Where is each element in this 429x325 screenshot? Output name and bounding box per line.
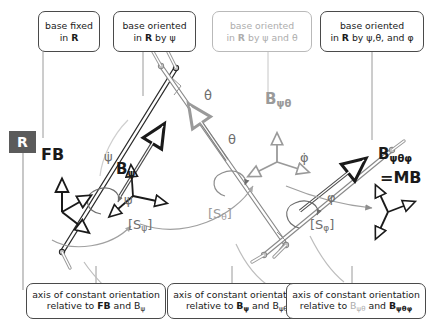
arrow-fb-to-bpsi xyxy=(52,226,131,247)
arc-decor-2 xyxy=(310,236,344,282)
phi-label: φ xyxy=(327,190,336,205)
bottom-box-axis1-line2: relative to FB and Bψ xyxy=(47,300,145,313)
bottom-box-axis3-line1: axis of constant orientation xyxy=(292,289,420,300)
reference-frame-badge: R xyxy=(9,131,36,153)
transform-s-theta-label: [Sθ] xyxy=(208,206,232,222)
frame-mb xyxy=(376,186,414,238)
top-box-bpsitheta-line1: base oriented xyxy=(230,20,294,31)
bpsitheta-frame-label: Bψθ xyxy=(265,90,291,109)
theta-dot-label: θ̇ xyxy=(204,88,212,103)
transform-s-psi-label: [Sψ] xyxy=(128,217,152,233)
top-box-bpsi-line1: base oriented xyxy=(122,20,186,31)
bottom-box-axis2-line2: relative to Bψ and Bψθ xyxy=(186,300,288,313)
bmb-frame-label: Bψθφ xyxy=(378,145,412,164)
mb-axis-z xyxy=(376,186,388,212)
kinematics-diagram: base fixed in R base oriented in R by ψ … xyxy=(0,0,429,325)
bottom-box-axis3: axis of constant orientation relative to… xyxy=(286,283,426,319)
arrow-bpsi-to-bpsitheta xyxy=(140,186,253,229)
bottom-box-axis3-line2: relative to Bψθ and Bψθφ xyxy=(300,300,412,313)
rotation-arcs xyxy=(87,171,317,228)
leader-lines-bottom xyxy=(96,266,352,283)
bottom-box-axis1-line1: axis of constant orientation xyxy=(32,289,160,300)
mb-frame-label: =MB xyxy=(380,168,422,187)
top-box-bpsitheta: base oriented in R by ψ and θ xyxy=(212,11,312,52)
psi-dot-label: ψ̇ xyxy=(104,149,113,164)
top-box-fb: base fixed in R xyxy=(38,11,100,52)
frame-fb xyxy=(62,180,90,232)
transform-s-phi-label: [Sφ] xyxy=(310,217,334,233)
bpsi-frame-label: Bψ xyxy=(116,160,135,179)
bpsitheta-axis-x xyxy=(249,162,277,176)
bottom-box-axis2-line1: axis of constant orientation xyxy=(173,289,301,300)
psi-label: ψ xyxy=(124,192,133,207)
top-box-bmb: base oriented in R by ψ,θ, and φ xyxy=(320,11,424,52)
bottom-box-axis1: axis of constant orientation relative to… xyxy=(26,283,166,319)
top-box-bpsi-line2: in R by ψ xyxy=(133,32,175,43)
top-box-bpsitheta-line2: in R by ψ and θ xyxy=(226,32,297,43)
theta-label: θ xyxy=(228,132,236,147)
bpsi-axis-y xyxy=(133,196,166,203)
mb-axis-x xyxy=(376,212,388,238)
mb-axis-y xyxy=(388,202,414,212)
reference-frame-badge-label: R xyxy=(17,134,28,150)
top-box-bmb-line1: base oriented xyxy=(340,20,404,31)
top-box-fb-line1: base fixed xyxy=(45,20,93,31)
top-box-bmb-line2: in R by ψ,θ, and φ xyxy=(330,32,413,43)
fb-frame-label: FB xyxy=(41,145,64,164)
top-box-fb-line2: in R xyxy=(60,32,79,43)
phi-dot-label: φ̇ xyxy=(300,150,309,165)
top-box-bpsi: base oriented in R by ψ xyxy=(113,11,196,52)
